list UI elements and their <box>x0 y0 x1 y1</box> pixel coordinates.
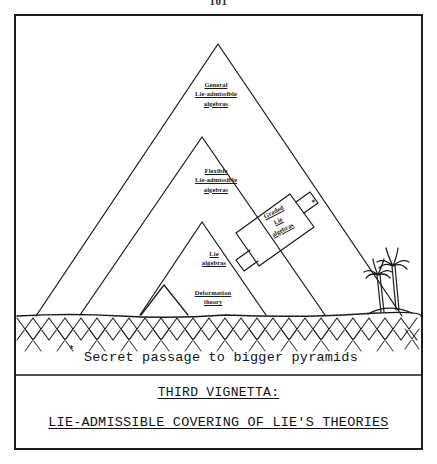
figure-page: 101 <box>0 0 437 464</box>
caption-text: Secret passage to bigger pyramids <box>84 350 358 365</box>
figure-title-line-1-text: THIRD VIGNETTA: <box>158 385 280 400</box>
label-general-lie-admissible-algebras: General Lie-admissible algebras <box>176 80 256 108</box>
label-lie-algebras: Lie algebras <box>178 249 250 268</box>
label-deformation-theory: Deformation theory <box>176 288 250 307</box>
figure-title-line-1: THIRD VIGNETTA: <box>0 385 437 400</box>
page-folio: 101 <box>0 0 437 7</box>
figure-title-line-2-text: LIE-ADMISSIBLE COVERING OF LIE'S THEORIE… <box>48 415 388 430</box>
figure-title-line-2: LIE-ADMISSIBLE COVERING OF LIE'S THEORIE… <box>0 415 437 430</box>
caption-footnote-marker: * <box>68 344 75 356</box>
label-flexible-lie-admissible-algebras: Flexible Lie-admissible algebras <box>176 166 256 194</box>
